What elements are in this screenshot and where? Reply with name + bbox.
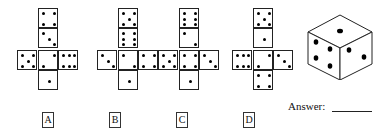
answer-prompt: Answer: [288, 100, 325, 112]
pip [288, 65, 291, 68]
cube-top-pip [337, 29, 343, 34]
pip [242, 65, 245, 68]
option-c-label: C [176, 112, 188, 128]
pip [268, 54, 271, 57]
face-top [179, 8, 199, 28]
net-b [97, 8, 159, 90]
pip [257, 85, 260, 88]
pip [73, 54, 76, 57]
pip [194, 12, 197, 15]
pip [209, 60, 212, 63]
pip [32, 54, 35, 57]
pip [183, 12, 186, 15]
face-upper [253, 28, 273, 48]
pip [73, 65, 76, 68]
pip [128, 80, 131, 83]
pip [277, 54, 280, 57]
face-left [17, 50, 37, 70]
pip [263, 18, 266, 21]
reference-cube [300, 10, 380, 80]
pip [247, 65, 250, 68]
pip [142, 54, 145, 57]
option-b-label: B [109, 112, 121, 128]
pip [168, 60, 171, 63]
pip [122, 54, 125, 57]
pip [133, 12, 136, 15]
pip [268, 12, 271, 15]
pip [162, 65, 165, 68]
pip [133, 65, 136, 68]
face-bottom [179, 70, 199, 90]
pip [183, 32, 186, 35]
pip [203, 54, 206, 57]
face-right [199, 50, 219, 70]
pip [122, 43, 125, 46]
pip [122, 32, 125, 35]
pip [236, 65, 239, 68]
pip [173, 54, 176, 57]
pip [62, 54, 65, 57]
pip [42, 23, 45, 26]
pip [133, 38, 136, 41]
pip [263, 38, 266, 41]
face-center [179, 50, 199, 70]
pip [122, 23, 125, 26]
face-upper [38, 28, 58, 48]
face-bottom [38, 70, 58, 90]
pip [194, 23, 197, 26]
face-top [253, 8, 273, 28]
pip [162, 54, 165, 57]
face-left [232, 50, 252, 70]
pip [42, 32, 45, 35]
pip [153, 65, 156, 68]
pip [183, 23, 186, 26]
pip [242, 54, 245, 57]
pip [21, 54, 24, 57]
pip [27, 60, 30, 63]
pip [21, 65, 24, 68]
pip [48, 38, 51, 41]
pip [112, 65, 115, 68]
pip [122, 38, 125, 41]
pip [183, 54, 186, 57]
pip [257, 12, 260, 15]
pip [53, 23, 56, 26]
pip [173, 65, 176, 68]
pip [53, 12, 56, 15]
pip [62, 65, 65, 68]
pip [268, 23, 271, 26]
pip [257, 23, 260, 26]
pip [53, 54, 56, 57]
pip [133, 23, 136, 26]
face-top [118, 8, 138, 28]
face-center [253, 50, 273, 70]
pip [183, 18, 186, 21]
face-center [118, 50, 138, 70]
pip [53, 43, 56, 46]
option-d-label: D [243, 112, 255, 128]
face-center [38, 50, 58, 70]
pip [268, 74, 271, 77]
net-d [232, 8, 294, 90]
face-right [58, 50, 78, 70]
face-bottom [253, 70, 273, 90]
pip [236, 54, 239, 57]
face-left [158, 50, 178, 70]
pip [133, 43, 136, 46]
pip [183, 65, 186, 68]
pip [257, 74, 260, 77]
pip [128, 18, 131, 21]
answer-blank[interactable] [332, 111, 372, 112]
pip [32, 65, 35, 68]
net-a [17, 8, 79, 90]
face-upper [179, 28, 199, 48]
face-top [38, 8, 58, 28]
pip [283, 60, 286, 63]
option-a-label: A [42, 112, 54, 128]
pip [194, 54, 197, 57]
pip [268, 85, 271, 88]
face-upper [118, 28, 138, 48]
pip [257, 65, 260, 68]
pip [133, 32, 136, 35]
pip [122, 12, 125, 15]
